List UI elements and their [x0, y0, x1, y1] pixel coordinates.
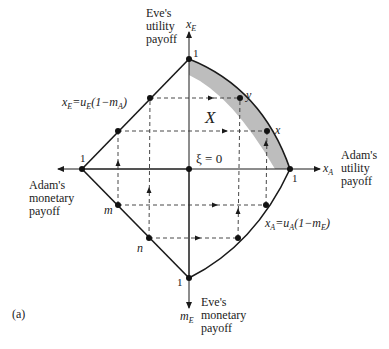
top-axis-var: xE: [185, 17, 196, 33]
origin-point: [186, 166, 192, 172]
point-lower-right-2: [235, 235, 241, 241]
eve-frontier-equation: xE=uE(1−mA): [61, 95, 127, 111]
point-m: [115, 202, 121, 208]
top-axis-tick: 1: [193, 47, 199, 59]
vertex-top: [186, 56, 192, 62]
edge-upper-left: [82, 59, 189, 169]
right-axis-title: Adam's utility payoff: [341, 148, 380, 188]
region-x-label: X: [204, 108, 216, 127]
top-axis-title: Eve's utility payoff: [146, 6, 178, 46]
point-lower-right-1: [263, 202, 269, 208]
label-y: y: [245, 88, 252, 102]
point-x: [264, 128, 270, 134]
vertex-bottom: [186, 275, 192, 281]
adam-frontier-equation: xA=uA(1−mE): [264, 216, 330, 232]
point-upper-left-1: [147, 95, 153, 101]
label-m: m: [104, 203, 113, 217]
vertex-left: [79, 166, 85, 172]
right-axis-var: xA: [322, 161, 333, 177]
label-x: x: [274, 123, 281, 137]
bargaining-diagram: Eve's utility payoff xE 1 Adam's utility…: [0, 0, 389, 349]
panel-label: (a): [12, 307, 25, 321]
point-n: [146, 235, 152, 241]
left-axis-title: Adam's monetary payoff: [29, 178, 77, 218]
left-axis-tick: 1: [80, 152, 86, 164]
origin-label: ξ = 0: [196, 151, 222, 166]
point-y: [237, 95, 243, 101]
bottom-axis-tick: 1: [177, 276, 183, 288]
right-axis-tick: 1: [292, 172, 298, 184]
point-upper-left-2: [115, 128, 121, 134]
bottom-axis-var: mE: [180, 309, 194, 325]
bottom-axis-title: Eve's monetary payoff: [201, 295, 249, 335]
label-n: n: [137, 241, 143, 255]
edge-lower-left: [82, 169, 189, 278]
